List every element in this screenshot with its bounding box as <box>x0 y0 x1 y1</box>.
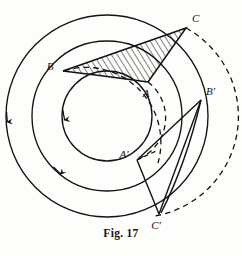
concentric-circles-group <box>6 15 208 217</box>
label-point-C: C <box>192 12 200 24</box>
label-point-A: A <box>142 87 150 99</box>
label-point-B: B <box>47 60 54 72</box>
inner-circle <box>62 71 152 161</box>
outer-circle <box>6 15 208 217</box>
figure-caption: Fig. 17 <box>0 227 242 239</box>
dashed-segment-Aprime-to-Bprime <box>137 151 156 160</box>
geometry-diagram: B C A A′ B′ C′ <box>0 0 242 256</box>
hatched-triangle-ABC <box>63 28 186 82</box>
inner-dashed-arc <box>136 82 166 160</box>
figure-container: B C A A′ B′ C′ Fig. 17 <box>0 0 242 256</box>
label-point-A-prime: A′ <box>118 148 129 160</box>
segment-Aprime-Cprime <box>137 160 159 214</box>
circle-direction-arrows-group <box>7 110 65 174</box>
inner-circle-direction-arrow <box>63 110 65 120</box>
label-point-B-prime: B′ <box>206 85 216 97</box>
outer-dashed-arc <box>155 28 238 216</box>
segment-Aprime-Bprime <box>137 100 201 160</box>
outer-circle-direction-arrow <box>7 112 8 122</box>
